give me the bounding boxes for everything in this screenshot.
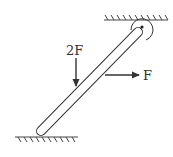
force-f: F (105, 68, 152, 83)
force-2f-label: 2F (66, 43, 83, 58)
ground-support (15, 137, 78, 142)
force-f-label: F (143, 68, 152, 83)
rod (41, 32, 138, 131)
force-2f: 2F (66, 43, 83, 86)
statics-diagram: 2F F (0, 0, 173, 157)
ceiling-support (104, 15, 168, 20)
pivot-pin-icon (140, 25, 143, 28)
